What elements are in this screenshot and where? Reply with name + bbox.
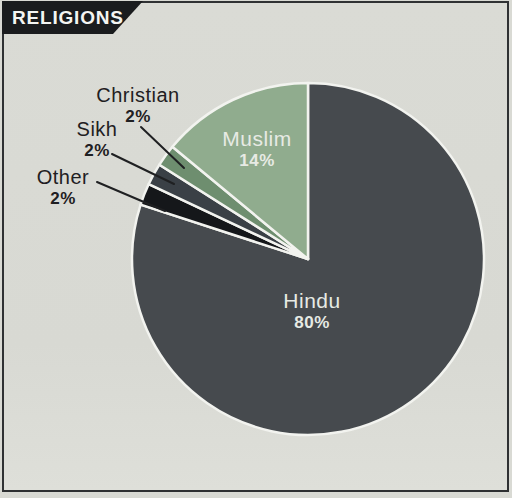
hindu-slice-label: Hindu 80% [283, 290, 340, 334]
muslim-slice-label: Muslim 14% [222, 128, 292, 172]
pie-slices [132, 83, 484, 435]
other-label-text: Other [37, 167, 90, 188]
christian-label-text: Christian [96, 85, 179, 106]
other-percent-text: 2% [37, 188, 90, 210]
muslim-percent-text: 14% [222, 150, 292, 172]
sikh-slice-label: Sikh 2% [77, 119, 118, 162]
other-slice-label: Other 2% [37, 167, 90, 210]
sikh-percent-text: 2% [77, 140, 118, 162]
pie-chart [0, 0, 512, 498]
hindu-label-text: Hindu [283, 290, 340, 312]
muslim-label-text: Muslim [222, 128, 292, 150]
sikh-label-text: Sikh [77, 119, 118, 140]
hindu-percent-text: 80% [283, 312, 340, 334]
